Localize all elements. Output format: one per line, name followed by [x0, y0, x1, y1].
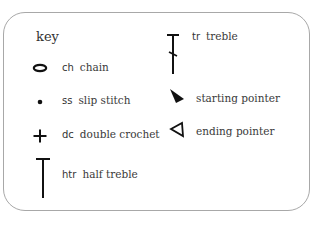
- legend-label: treble: [206, 30, 238, 42]
- legend-item-slip-stitch: ss slip stitch: [62, 94, 130, 106]
- legend-label: double crochet: [80, 128, 160, 140]
- legend-label: half treble: [82, 168, 137, 180]
- legend-abbr: htr: [62, 169, 76, 180]
- key-title: key: [36, 29, 59, 44]
- legend-item-half-treble: htr half treble: [62, 168, 138, 180]
- legend-item-starting-pointer: starting pointer: [196, 92, 280, 104]
- legend-item-ending-pointer: ending pointer: [196, 125, 275, 137]
- legend-label: slip stitch: [78, 94, 130, 106]
- legend-abbr: dc: [62, 129, 74, 140]
- dot-slip-stitch-icon: [36, 98, 44, 106]
- legend-abbr: tr: [192, 31, 200, 42]
- legend-abbr: ss: [62, 95, 72, 106]
- legend-label: starting pointer: [196, 92, 280, 104]
- t-slash-treble-icon: [165, 33, 181, 75]
- legend-item-treble: tr treble: [192, 30, 238, 42]
- legend-item-double-crochet: dc double crochet: [62, 128, 160, 140]
- legend-item-chain: ch chain: [62, 61, 109, 73]
- oval-chain-icon: [32, 63, 48, 73]
- t-half-treble-icon: [34, 157, 52, 199]
- plus-double-crochet-icon: [32, 128, 48, 144]
- filled-triangle-starting-pointer-icon: [168, 87, 186, 105]
- legend-label: chain: [80, 61, 109, 73]
- legend-label: ending pointer: [196, 125, 275, 137]
- legend-abbr: ch: [62, 62, 74, 73]
- outline-triangle-ending-pointer-icon: [168, 120, 186, 138]
